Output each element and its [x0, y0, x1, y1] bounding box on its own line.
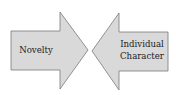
- character-label: Character: [120, 51, 165, 61]
- right-arrow: Individual Character: [92, 13, 168, 90]
- novelty-label: Novelty: [19, 45, 53, 55]
- left-arrow: Novelty: [11, 12, 88, 89]
- individual-label: Individual: [120, 39, 164, 49]
- diagram-canvas: Novelty Individual Character: [0, 0, 176, 95]
